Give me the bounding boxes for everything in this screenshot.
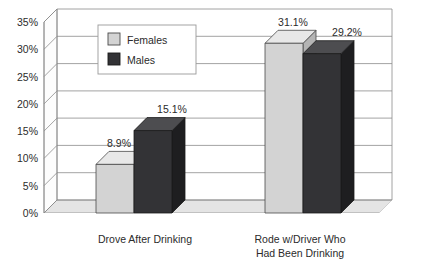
bar-females-rode-front bbox=[265, 43, 303, 213]
category-label-rode-line1: Rode w/Driver Who bbox=[254, 233, 345, 245]
y-tick-10: 10% bbox=[17, 152, 38, 164]
bar-group-rode-with-driver bbox=[265, 30, 354, 213]
y-tick-0: 0% bbox=[23, 207, 38, 219]
bar-males-drove[interactable] bbox=[134, 118, 185, 213]
y-tick-25: 25% bbox=[17, 71, 38, 83]
category-labels: Drove After Drinking Rode w/Driver Who H… bbox=[98, 233, 346, 259]
category-label-drove-after-drinking: Drove After Drinking bbox=[98, 233, 192, 245]
data-label-females-drove: 8.9% bbox=[107, 137, 131, 149]
data-label-males-rode: 29.2% bbox=[332, 26, 362, 38]
bar-males-drove-side bbox=[172, 118, 185, 213]
y-tick-35: 35% bbox=[17, 16, 38, 28]
legend-swatch-males bbox=[108, 53, 120, 65]
legend-label-males: Males bbox=[127, 54, 155, 66]
bar-males-rode-side bbox=[341, 41, 354, 213]
legend-label-females: Females bbox=[127, 34, 167, 46]
left-wall bbox=[44, 9, 57, 213]
y-tick-20: 20% bbox=[17, 98, 38, 110]
data-label-females-rode: 31.1% bbox=[278, 16, 308, 28]
floor-front-strip bbox=[44, 213, 379, 228]
bar-males-rode-front bbox=[303, 54, 341, 213]
data-label-males-drove: 15.1% bbox=[157, 103, 187, 115]
bar-males-rode[interactable] bbox=[303, 41, 354, 213]
chart-container: 35% 30% 25% 20% 15% 10% 5% 0% bbox=[0, 0, 444, 269]
legend-box bbox=[98, 25, 196, 74]
bar-males-drove-front bbox=[134, 131, 172, 213]
bar-chart-3d: 35% 30% 25% 20% 15% 10% 5% 0% bbox=[0, 0, 444, 269]
legend[interactable]: Females Males bbox=[98, 25, 196, 74]
y-axis-labels: 35% 30% 25% 20% 15% 10% 5% 0% bbox=[17, 16, 38, 219]
y-tick-15: 15% bbox=[17, 125, 38, 137]
y-tick-30: 30% bbox=[17, 43, 38, 55]
y-tick-5: 5% bbox=[23, 180, 38, 192]
legend-swatch-females bbox=[108, 33, 120, 45]
bar-females-drove-front bbox=[96, 164, 134, 213]
category-label-rode-line2: Had Been Drinking bbox=[256, 247, 344, 259]
